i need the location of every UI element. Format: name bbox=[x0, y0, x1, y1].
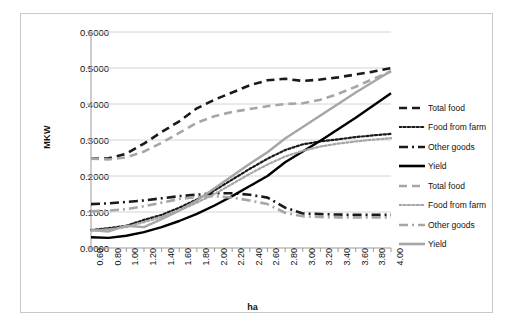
legend-item[interactable]: Food from farm bbox=[399, 196, 494, 216]
legend-item[interactable]: Yield bbox=[399, 157, 494, 177]
x-tick-label: 1.20 bbox=[148, 248, 158, 266]
series-line-gray-food-from-farm bbox=[91, 138, 391, 231]
legend-swatch-dotted-icon bbox=[399, 200, 425, 210]
legend-label: Total food bbox=[428, 181, 465, 191]
x-tick-label: 3.80 bbox=[377, 248, 387, 266]
legend-item[interactable]: Food from farm bbox=[399, 118, 494, 138]
x-tick-label: 1.60 bbox=[183, 248, 193, 266]
legend-item[interactable]: Total food bbox=[399, 98, 494, 118]
legend-label: Other goods bbox=[428, 220, 475, 230]
legend-swatch-dotted-icon bbox=[399, 122, 425, 132]
chart-frame: MKW 0.00000.10000.20000.30000.40000.5000… bbox=[20, 13, 493, 313]
x-axis-tick-labels: 0.600.801.001.201.401.601.802.002.202.40… bbox=[111, 248, 394, 308]
x-tick-label: 2.60 bbox=[271, 248, 281, 266]
series-line-black-yield bbox=[91, 93, 391, 238]
legend-swatch-solid-icon bbox=[399, 161, 425, 171]
x-tick-label: 2.00 bbox=[219, 248, 229, 266]
legend-label: Food from farm bbox=[428, 122, 486, 132]
legend-item[interactable]: Other goods bbox=[399, 137, 494, 157]
legend-item[interactable]: Yield bbox=[399, 235, 494, 255]
x-tick-label: 1.00 bbox=[130, 248, 140, 266]
chart-legend: Total foodFood from farmOther goodsYield… bbox=[399, 98, 494, 254]
x-tick-label: 1.80 bbox=[201, 248, 211, 266]
x-axis-title: ha bbox=[111, 302, 394, 312]
legend-swatch-dashdot-icon bbox=[399, 142, 425, 152]
legend-swatch-dashdot-icon bbox=[399, 220, 425, 230]
legend-label: Yield bbox=[428, 161, 447, 171]
series-line-black-total-food bbox=[91, 68, 391, 159]
plot-area-wrapper: MKW 0.00000.10000.20000.30000.40000.5000… bbox=[21, 14, 494, 314]
legend-swatch-solid-icon bbox=[399, 239, 425, 249]
series-line-gray-other-goods bbox=[91, 196, 391, 217]
series-line-black-food-from-farm bbox=[91, 134, 391, 230]
legend-label: Total food bbox=[428, 103, 465, 113]
x-tick-label: 2.80 bbox=[289, 248, 299, 266]
x-tick-label: 1.40 bbox=[166, 248, 176, 266]
x-tick-label: 2.40 bbox=[254, 248, 264, 266]
legend-swatch-dashed-icon bbox=[399, 103, 425, 113]
x-tick-label: 0.80 bbox=[113, 248, 123, 266]
legend-label: Food from farm bbox=[428, 200, 486, 210]
legend-label: Other goods bbox=[428, 142, 475, 152]
series-line-gray-total-food bbox=[91, 72, 391, 160]
legend-item[interactable]: Other goods bbox=[399, 215, 494, 235]
x-tick-label: 3.40 bbox=[342, 248, 352, 266]
legend-label: Yield bbox=[428, 239, 447, 249]
x-tick-label: 3.60 bbox=[360, 248, 370, 266]
x-tick-label: 0.60 bbox=[95, 248, 105, 266]
legend-item[interactable]: Total food bbox=[399, 176, 494, 196]
x-tick-label: 2.20 bbox=[236, 248, 246, 266]
x-tick-label: 3.20 bbox=[324, 248, 334, 266]
x-tick-label: 3.00 bbox=[307, 248, 317, 266]
legend-swatch-dashed-icon bbox=[399, 181, 425, 191]
